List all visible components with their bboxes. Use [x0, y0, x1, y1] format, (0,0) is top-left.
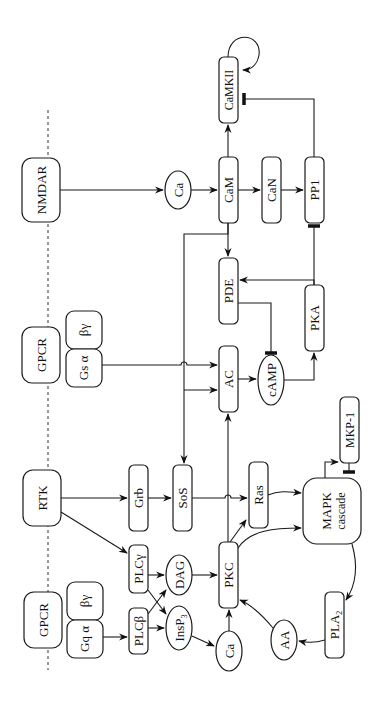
pla2-label: PLA2 — [327, 611, 344, 640]
pkc-node: PKC — [219, 542, 238, 608]
sos-node: SoS — [173, 465, 192, 531]
aa-label: AA — [277, 630, 292, 649]
aa-node: AA — [271, 620, 297, 660]
ca-bottom-label: Ca — [222, 644, 237, 659]
pp1-label: PP1 — [307, 180, 322, 201]
pla2-node: PLA2 — [325, 592, 344, 658]
insp3-label: InsP3 — [172, 614, 189, 641]
mkp1-label: MKP-1 — [343, 412, 357, 448]
pde-node: PDE — [219, 258, 238, 324]
ras-label: Ras — [251, 485, 266, 505]
pkc-label: PKC — [221, 562, 236, 587]
mapk-label-line2: cascade — [334, 492, 348, 529]
pde-label: PDE — [221, 279, 236, 304]
dag-label: DAG — [172, 561, 187, 589]
camkii-label: CaMKII — [222, 70, 236, 111]
signaling-diagram: NMDAR GPCR RTK GPCR βγ Gs α βγ Gq α Grb … — [0, 0, 386, 715]
can-label: CaN — [264, 177, 279, 201]
rtk-node: RTK — [23, 470, 61, 526]
pka-label: PKA — [307, 304, 322, 331]
plcg-label: PLCγ — [131, 554, 146, 584]
gq-betagamma-node: βγ — [67, 582, 103, 620]
pp1-node: PP1 — [305, 157, 324, 223]
sos-label: SoS — [175, 488, 190, 509]
insp3-node: InsP3 — [166, 606, 192, 650]
grb-node: Grb — [129, 465, 148, 531]
plcb-node: PLCβ — [129, 608, 148, 654]
gq-alpha-node: Gq α — [67, 620, 103, 658]
grb-label: Grb — [131, 488, 146, 508]
gs-betagamma-label: βγ — [76, 324, 91, 337]
ras-node: Ras — [249, 462, 268, 528]
gpcr-s-label: GPCR — [34, 338, 49, 372]
plcb-label: PLCβ — [131, 615, 146, 646]
ac-label: AC — [221, 370, 236, 388]
rtk-label: RTK — [35, 485, 50, 511]
ca-top-label: Ca — [171, 183, 186, 198]
can-node: CaN — [262, 157, 281, 223]
gpcr-q-label: GPCR — [36, 603, 51, 637]
gs-betagamma-node: βγ — [66, 311, 102, 349]
plcg-node: PLCγ — [129, 545, 148, 593]
gq-alpha-label: Gq α — [77, 626, 92, 652]
ca-bottom-node: Ca — [216, 631, 242, 671]
dag-node: DAG — [166, 555, 192, 595]
gpcr-s-node: GPCR — [22, 327, 60, 383]
cam-node: CaM — [219, 157, 238, 223]
ca-top-node: Ca — [165, 171, 191, 209]
nmdar-node: NMDAR — [22, 158, 60, 222]
mkp1-node: MKP-1 — [340, 397, 359, 463]
gs-alpha-node: Gs α — [66, 349, 102, 387]
ac-node: AC — [219, 346, 238, 412]
camp-node: cAMP — [258, 355, 284, 405]
gq-betagamma-label: βγ — [77, 595, 92, 608]
mapk-cascade-node: MAPK cascade — [303, 478, 361, 544]
camkii-node: CaMKII — [219, 57, 238, 123]
cam-label: CaM — [221, 177, 236, 203]
pka-node: PKA — [305, 285, 324, 351]
gs-alpha-label: Gs α — [76, 356, 91, 381]
mapk-label-line1: MAPK — [319, 492, 334, 530]
gpcr-q-node: GPCR — [24, 592, 62, 648]
nmdar-label: NMDAR — [34, 165, 49, 214]
camp-label: cAMP — [264, 363, 279, 397]
